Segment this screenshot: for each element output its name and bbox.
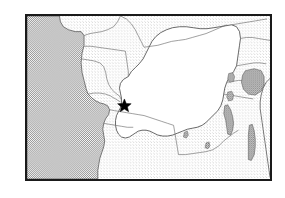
locator-map-figure: Democratic Republic of the Congo Atlanti… <box>0 0 285 198</box>
lake-kivu <box>227 91 234 101</box>
map-frame <box>25 14 272 181</box>
map-canvas <box>27 16 270 179</box>
lake-albert <box>228 73 235 83</box>
